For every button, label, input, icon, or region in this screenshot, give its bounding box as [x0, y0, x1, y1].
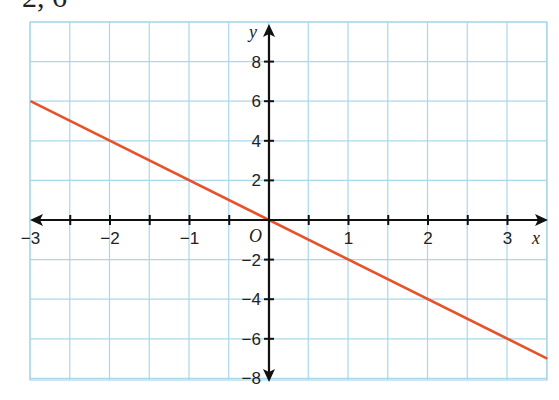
- coordinate-plane: −3−2−11238642−2−4−6−8Oxy: [0, 0, 559, 400]
- x-tick-label: −2: [100, 229, 119, 248]
- x-axis-label: x: [531, 228, 540, 248]
- y-tick-label: 2: [252, 171, 261, 190]
- y-tick-label: −4: [242, 290, 261, 309]
- origin-label: O: [249, 226, 262, 246]
- grid-border: [30, 22, 547, 380]
- x-tick-label: 3: [503, 229, 512, 248]
- tick-labels: −3−2−11238642−2−4−6−8Oxy: [21, 22, 540, 388]
- y-tick-label: 4: [252, 132, 261, 151]
- y-tick-label: 8: [252, 53, 261, 72]
- y-tick-label: −2: [242, 251, 261, 270]
- grid: [30, 22, 547, 380]
- y-tick-label: −6: [242, 330, 261, 349]
- y-tick-label: 6: [252, 92, 261, 111]
- axes: [30, 24, 548, 382]
- x-tick-label: −1: [180, 229, 199, 248]
- x-tick-label: −3: [21, 229, 40, 248]
- x-tick-label: 2: [423, 229, 432, 248]
- y-tick-label: −8: [242, 369, 261, 388]
- y-axis-label: y: [247, 22, 257, 42]
- x-tick-label: 1: [344, 229, 353, 248]
